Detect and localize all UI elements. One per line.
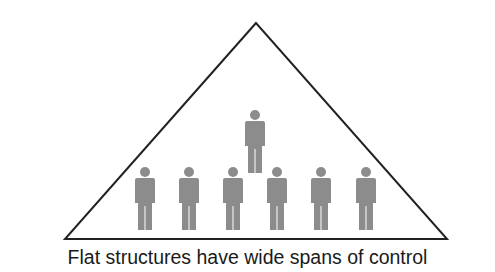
subordinate-figure-icon xyxy=(179,167,199,230)
manager-figure-icon xyxy=(245,110,265,173)
person-head xyxy=(361,167,371,177)
subordinate-figure-icon xyxy=(135,167,155,230)
person-body xyxy=(245,121,265,173)
person-body xyxy=(179,178,199,230)
person-head xyxy=(272,167,282,177)
person-head xyxy=(184,167,194,177)
person-body xyxy=(311,178,331,230)
subordinate-figure-icon xyxy=(311,167,331,230)
person-body xyxy=(223,178,243,230)
person-head xyxy=(140,167,150,177)
subordinate-figure-icon xyxy=(223,167,243,230)
person-body xyxy=(135,178,155,230)
diagram-caption: Flat structures have wide spans of contr… xyxy=(0,246,495,269)
hierarchy-diagram xyxy=(0,0,495,272)
person-body xyxy=(356,178,376,230)
person-head xyxy=(250,110,260,120)
person-head xyxy=(228,167,238,177)
subordinate-figure-icon xyxy=(267,167,287,230)
subordinate-figure-icon xyxy=(356,167,376,230)
person-head xyxy=(316,167,326,177)
person-body xyxy=(267,178,287,230)
